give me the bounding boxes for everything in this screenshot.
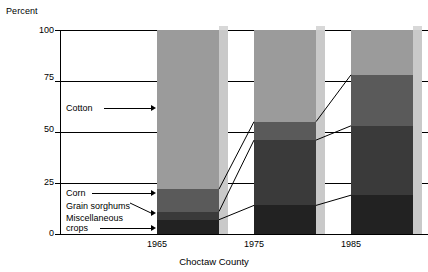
callout-leader-corn xyxy=(92,193,152,194)
callout-leader-misc-crops xyxy=(100,228,152,229)
callout-leader-cotton xyxy=(104,108,152,109)
x-axis-label-1985: 1985 xyxy=(311,239,391,249)
y-tick-label-75: 75 xyxy=(28,72,54,82)
callout-arrow-misc-crops xyxy=(151,225,156,231)
x-axis-label-1975: 1975 xyxy=(214,239,294,249)
callout-label-misc-crops: Miscellaneous crops xyxy=(66,213,123,233)
callout-arrow-cotton xyxy=(151,105,156,111)
y-axis-title: Percent xyxy=(6,6,38,16)
callout-arrow-corn xyxy=(151,190,156,196)
y-tick-label-50: 50 xyxy=(28,124,54,134)
gridline-0 xyxy=(55,234,428,235)
callout-label-corn: Corn xyxy=(66,188,86,198)
y-tick-label-25: 25 xyxy=(28,177,54,187)
x-axis-label-1965: 1965 xyxy=(117,239,197,249)
y-tick-label-0: 0 xyxy=(28,228,54,238)
callout-arrow-grain-sorghums xyxy=(151,210,156,216)
chart-container: Percent 100 75 50 25 0 xyxy=(0,0,428,272)
callout-label-grain-sorghums: Grain sorghums xyxy=(66,201,130,211)
chart-caption: Choctaw County xyxy=(0,256,428,267)
callout-label-cotton: Cotton xyxy=(66,103,93,113)
y-tick-label-100: 100 xyxy=(28,25,54,35)
